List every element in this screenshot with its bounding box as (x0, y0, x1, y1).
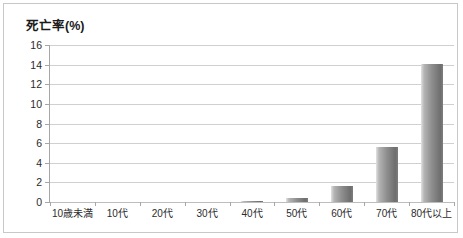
y-tick-mark (45, 124, 49, 125)
y-tick-label: 16 (8, 40, 42, 50)
x-tick-label: 10代 (95, 208, 140, 220)
bar-60代 (331, 186, 353, 202)
x-tick-label: 70代 (364, 208, 409, 220)
y-tick-label: 2 (8, 177, 42, 187)
x-tick-label: 60代 (319, 208, 364, 220)
gridline (50, 124, 454, 125)
plot-area (50, 45, 454, 202)
gridline (50, 104, 454, 105)
y-tick-label: 14 (8, 60, 42, 70)
y-tick-mark (45, 65, 49, 66)
chart-container: 死亡率(%) 1614121086420 10歳未満10代20代30代40代50… (0, 0, 463, 238)
y-tick-mark (45, 45, 49, 46)
x-tick-label: 30代 (185, 208, 230, 220)
x-tick-mark (364, 202, 365, 206)
bar-50代 (286, 198, 308, 202)
x-tick-mark (274, 202, 275, 206)
bar-70代 (376, 147, 398, 202)
y-tick-label: 0 (8, 197, 42, 207)
x-tick-mark (50, 202, 51, 206)
bar-40代 (241, 201, 263, 202)
gridline (50, 45, 454, 46)
x-tick-mark (409, 202, 410, 206)
y-tick-label: 8 (8, 119, 42, 129)
x-tick-mark (454, 202, 455, 206)
x-tick-label: 10歳未満 (50, 208, 95, 220)
y-tick-label: 4 (8, 158, 42, 168)
chart-frame: 死亡率(%) 1614121086420 10歳未満10代20代30代40代50… (3, 3, 458, 233)
y-tick-label: 6 (8, 138, 42, 148)
gridline (50, 202, 454, 203)
x-tick-label: 20代 (140, 208, 185, 220)
gridline (50, 143, 454, 144)
y-axis-labels: 1614121086420 (4, 4, 42, 238)
gridline (50, 65, 454, 66)
x-tick-label: 80代以上 (409, 208, 454, 220)
y-tick-mark (45, 202, 49, 203)
x-tick-label: 50代 (274, 208, 319, 220)
y-tick-mark (45, 84, 49, 85)
y-tick-mark (45, 163, 49, 164)
x-tick-mark (140, 202, 141, 206)
y-tick-label: 12 (8, 79, 42, 89)
x-tick-label: 40代 (230, 208, 275, 220)
y-tick-label: 10 (8, 99, 42, 109)
y-tick-mark (45, 182, 49, 183)
x-tick-mark (230, 202, 231, 206)
bar-80代以上 (421, 64, 443, 202)
y-tick-mark (45, 104, 49, 105)
x-tick-mark (185, 202, 186, 206)
x-tick-mark (319, 202, 320, 206)
y-tick-mark (45, 143, 49, 144)
x-tick-mark (95, 202, 96, 206)
gridline (50, 84, 454, 85)
